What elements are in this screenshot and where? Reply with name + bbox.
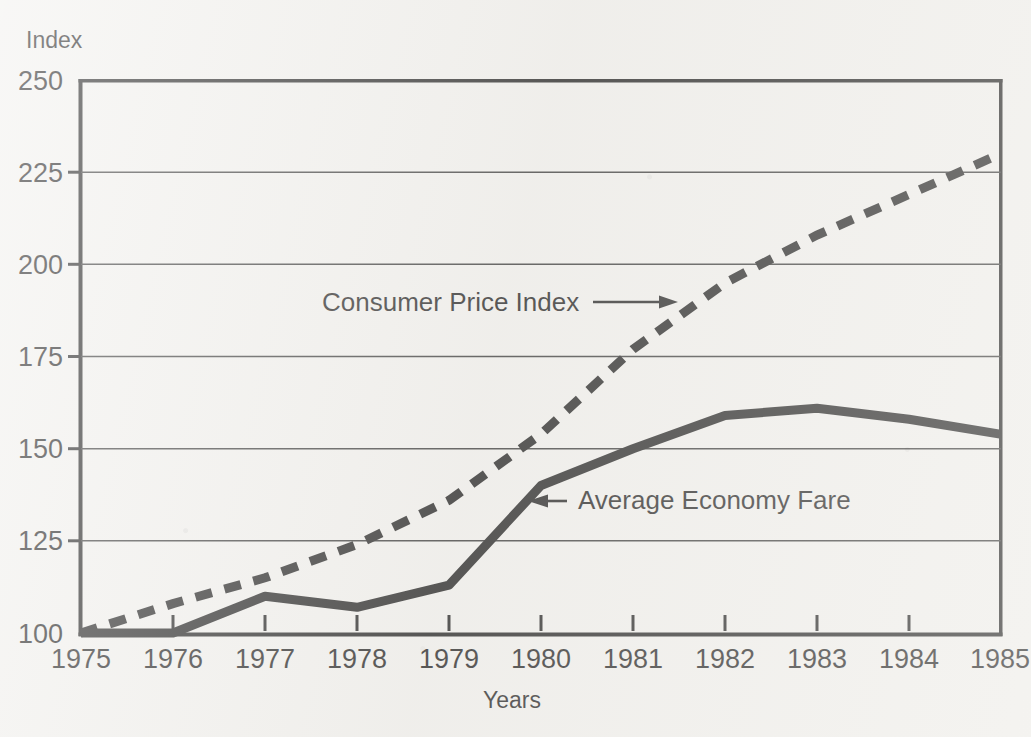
series-line-average-economy-fare [81, 408, 1000, 633]
x-axis-tick-labels: 1975 1976 1977 1978 1979 1980 1981 1982 … [51, 644, 1030, 674]
x-axis-ticks [173, 615, 909, 631]
plot-right-border [999, 79, 1003, 636]
x-tick-label-1981: 1981 [603, 644, 663, 674]
x-tick-label-1977: 1977 [235, 644, 295, 674]
plot-frame [79, 79, 1003, 637]
plot-top-border [79, 79, 1003, 83]
x-tick-label-1978: 1978 [327, 644, 387, 674]
annotation-label-average-economy-fare: Average Economy Fare [578, 485, 851, 515]
y-tick-label-175: 175 [18, 342, 63, 372]
y-axis-ticks [68, 172, 80, 541]
x-tick-label-1976: 1976 [143, 644, 203, 674]
x-tick-label-1980: 1980 [511, 644, 571, 674]
annotation-consumer-price-index: Consumer Price Index [322, 287, 678, 317]
annotation-label-consumer-price-index: Consumer Price Index [322, 287, 579, 317]
x-axis-title: Years [483, 687, 541, 713]
x-tick-label-1984: 1984 [879, 644, 939, 674]
y-tick-label-250: 250 [18, 66, 63, 96]
x-axis-spine [79, 633, 1003, 637]
x-tick-label-1985: 1985 [970, 644, 1030, 674]
y-tick-label-225: 225 [18, 158, 63, 188]
x-tick-label-1979: 1979 [419, 644, 479, 674]
y-axis-title: Index [26, 27, 83, 53]
y-tick-label-125: 125 [18, 526, 63, 556]
line-chart-figure: Index 250 [0, 0, 1031, 737]
y-tick-label-200: 200 [18, 250, 63, 280]
annotation-average-economy-fare: Average Economy Fare [528, 485, 851, 515]
x-tick-label-1975: 1975 [51, 644, 111, 674]
y-tick-label-150: 150 [18, 434, 63, 464]
x-tick-label-1982: 1982 [695, 644, 755, 674]
y-axis-tick-labels: 250 225 200 175 150 125 100 [18, 66, 63, 649]
arrow-right-icon [659, 296, 678, 309]
chart-canvas: Index 250 [0, 0, 1031, 737]
series-line-consumer-price-index [81, 154, 1000, 633]
x-tick-label-1983: 1983 [787, 644, 847, 674]
